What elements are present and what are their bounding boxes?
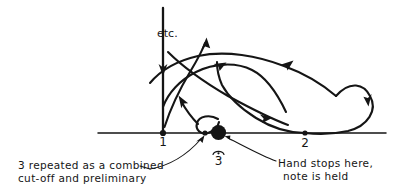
beat-one-label: 1 [159,135,167,149]
return-to-three-curve [217,62,305,133]
held-note-dot-icon [211,125,226,140]
sweep-arrow-icon [214,62,227,71]
loop-entry-stroke [181,101,198,124]
right-caption-line-one: Hand stops here, [278,157,373,169]
beat-two-label: 2 [301,136,309,150]
rebound-arrow-icon [201,38,210,50]
right-caption-line-two: note is held [283,170,349,182]
beat-three-label: 3 [215,154,223,168]
conducting-pattern-figure: etc. 1 2 3 3 repeated as a combined cut-… [0,0,400,196]
right-caption-leader-line [228,138,276,161]
beat-dot-three-preliminary [202,130,207,135]
left-caption-line-two: cut-off and preliminary [18,172,147,184]
right-loop-arrow-icon [363,94,371,107]
right-loop-curve [305,85,373,133]
beat-dot-two [302,130,307,135]
descending-diagonal-curve [168,52,288,125]
diagram-canvas: etc. 1 2 3 3 repeated as a combined cut-… [0,0,400,196]
left-caption-line-one: 3 repeated as a combined [18,159,164,171]
right-leader-arrow-icon [225,136,234,142]
left-leader-arrow-icon [196,135,204,143]
etc-label: etc. [157,27,178,40]
